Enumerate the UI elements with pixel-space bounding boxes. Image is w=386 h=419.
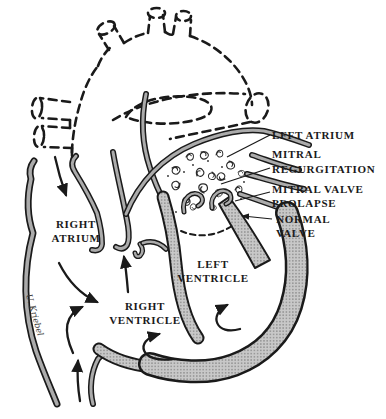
label-mitral-valve-prolapse-line1: MITRAL VALVE (272, 183, 364, 195)
pulmonary-loop (126, 96, 212, 123)
label-right-ventricle-line1: RIGHT (125, 300, 165, 312)
aortic-branch-stub-3 (176, 11, 191, 21)
right-pa-stub-1 (31, 97, 43, 119)
label-right-ventricle-line2: VENTRICLE (109, 314, 181, 326)
label-mitral-regurgitation-line2: REGURGITATION (272, 163, 375, 175)
dashed-heart-outline (31, 8, 272, 166)
heart-walls (26, 94, 309, 404)
label-right-atrium-line2: ATRIUM (51, 232, 100, 244)
label-normal-valve-line1: NORMAL (276, 213, 330, 225)
right-pa-stub-2 (33, 126, 44, 148)
pulmonary-trunk-end (242, 90, 272, 125)
lv-swirl-arrow (216, 305, 240, 330)
heart-diagram: LFFT ATRIUM MITRAL REGURGITATION MITRAL … (0, 0, 386, 419)
label-left-ventricle-line1: LEFT (197, 258, 229, 270)
annotation-labels: LFFT ATRIUM MITRAL REGURGITATION MITRAL … (272, 129, 375, 239)
leader-normal-valve (243, 216, 272, 219)
ivc-inflow-arrow (78, 361, 80, 401)
heart-diagram-figure: LFFT ATRIUM MITRAL REGURGITATION MITRAL … (0, 0, 386, 419)
svc-inflow-arrow (55, 157, 66, 195)
label-left-ventricle-line2: VENTRICLE (177, 272, 249, 284)
label-mitral-valve-prolapse-line2: PROLAPSE (272, 197, 336, 209)
label-right-atrium-line1: RIGHT (56, 218, 96, 230)
label-normal-valve-line2: VALVE (276, 227, 316, 239)
label-mitral-regurgitation-line1: MITRAL (272, 148, 321, 160)
ra-flow-arrow-lower (67, 307, 82, 353)
label-left-atrium: LFFT ATRIUM (272, 129, 355, 141)
aortic-branch-stub-2 (148, 8, 165, 18)
leader-left-atrium (227, 135, 270, 157)
ra-flow-arrow-upper (59, 263, 97, 302)
aortic-branch-stub-1 (95, 19, 117, 38)
rv-inflow-arrow (124, 257, 128, 292)
